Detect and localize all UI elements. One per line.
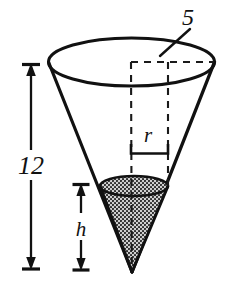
label-total-height: 12 [18, 151, 44, 180]
geometry-figure: 5 12 r h [0, 0, 232, 294]
label-inner-height: h [76, 217, 87, 241]
figure-background [0, 0, 232, 294]
cone-diagram-canvas: 5 12 r h [0, 0, 232, 294]
label-inner-radius: r [144, 123, 153, 147]
label-top-radius: 5 [182, 4, 194, 30]
